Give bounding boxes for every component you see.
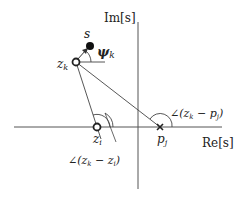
- zk-zero-marker: [73, 59, 80, 66]
- s-point-marker: [86, 42, 94, 50]
- psi-angle-arc: [86, 51, 91, 62]
- real-axis-label: Re[s]: [202, 136, 234, 150]
- angle-zk-zi-label: ∠(zk − zi): [68, 154, 120, 168]
- complex-plane-diagram: Im[s] Re[s] s zk ψk zi pj ∠(zk − zi) ∠(z…: [0, 0, 241, 197]
- pj-label: pj: [157, 132, 168, 147]
- psi-k-label: ψk: [97, 44, 115, 60]
- imag-axis-label: Im[s]: [104, 11, 136, 25]
- zk-label: zk: [56, 57, 68, 72]
- s-label: s: [84, 27, 90, 41]
- zi-zero-marker: [94, 124, 101, 131]
- line-zk-zi: [76, 62, 97, 127]
- zi-label: zi: [92, 132, 102, 147]
- angle-zk-pj-label: ∠(zk − pj): [170, 107, 223, 121]
- line-zk-pj: [76, 62, 160, 127]
